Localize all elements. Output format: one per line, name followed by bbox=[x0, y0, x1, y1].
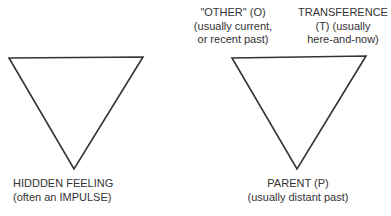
parent-vertex-label: PARENT (P) (usually distant past) bbox=[243, 177, 353, 204]
transference-label-line3: here-and-now) bbox=[293, 33, 391, 47]
left-triangle-of-conflict bbox=[9, 57, 143, 169]
hidden-feeling-label-line1: HIDDDEN FEELING bbox=[13, 177, 113, 191]
right-triangle-of-person bbox=[232, 56, 366, 169]
other-vertex-label: "OTHER" (O) (usually current, or recent … bbox=[183, 6, 283, 47]
transference-vertex-label: TRANSFERENCE (T) (usually here-and-now) bbox=[293, 6, 391, 47]
other-label-line1: "OTHER" (O) bbox=[183, 6, 283, 20]
parent-label-line2: (usually distant past) bbox=[243, 191, 353, 205]
other-label-line3: or recent past) bbox=[183, 33, 283, 47]
parent-label-line1: PARENT (P) bbox=[243, 177, 353, 191]
transference-label-line2: (T) (usually bbox=[293, 20, 391, 34]
hidden-feeling-label-line2: (often an IMPULSE) bbox=[13, 191, 113, 205]
transference-label-line1: TRANSFERENCE bbox=[293, 6, 391, 20]
hidden-feeling-vertex-label: HIDDDEN FEELING (often an IMPULSE) bbox=[13, 177, 113, 204]
other-label-line2: (usually current, bbox=[183, 20, 283, 34]
